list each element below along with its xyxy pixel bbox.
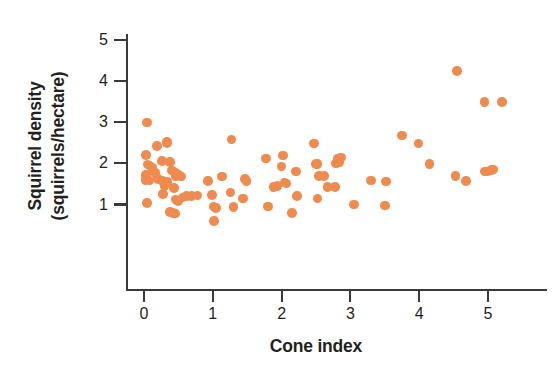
- data-point: [162, 137, 172, 147]
- x-tick-label: 1: [201, 306, 225, 322]
- x-tick-label: 2: [270, 306, 294, 322]
- data-point: [497, 97, 507, 107]
- y-tick-mark: [114, 39, 126, 41]
- y-axis-label: Squirrel density (squirrels/hectare): [24, 6, 80, 286]
- data-point: [226, 188, 236, 198]
- data-point: [397, 131, 407, 141]
- data-point: [277, 162, 287, 172]
- x-tick-label: 3: [338, 306, 362, 322]
- data-point: [414, 139, 424, 149]
- y-tick-label: 2: [88, 155, 108, 171]
- data-point: [227, 135, 237, 145]
- data-point: [336, 153, 346, 163]
- y-axis-label-line1: Squirrel density: [24, 6, 47, 286]
- y-axis-line: [126, 34, 128, 291]
- data-point: [209, 216, 219, 226]
- data-point: [203, 176, 213, 186]
- data-point: [380, 201, 390, 211]
- x-tick-label: 4: [407, 306, 431, 322]
- data-point: [263, 202, 273, 212]
- data-point: [242, 176, 252, 186]
- data-point: [229, 202, 239, 212]
- data-point: [461, 176, 471, 186]
- data-point: [261, 154, 271, 164]
- data-point: [452, 66, 462, 76]
- data-point: [291, 167, 301, 177]
- data-point: [211, 203, 221, 213]
- data-point: [158, 189, 168, 199]
- x-tick-label: 5: [476, 306, 500, 322]
- y-tick-label: 1: [88, 197, 108, 213]
- data-point: [163, 177, 173, 187]
- data-point: [142, 118, 152, 128]
- data-point: [330, 182, 340, 192]
- x-tick-mark: [281, 291, 283, 302]
- data-point: [292, 191, 302, 201]
- data-point: [207, 190, 217, 200]
- data-point: [171, 209, 181, 219]
- y-tick-mark: [114, 203, 126, 205]
- data-point: [217, 172, 227, 182]
- data-point: [141, 150, 151, 160]
- x-tick-mark: [143, 291, 145, 302]
- x-tick-mark: [349, 291, 351, 302]
- y-tick-label: 3: [88, 114, 108, 130]
- data-point: [193, 191, 203, 201]
- data-point: [313, 194, 323, 204]
- x-tick-mark: [487, 291, 489, 302]
- data-point: [152, 141, 162, 151]
- data-point: [319, 171, 329, 181]
- y-tick-label: 5: [88, 32, 108, 48]
- x-axis-label: Cone index: [144, 336, 488, 357]
- data-point: [278, 151, 288, 161]
- data-point: [282, 179, 292, 189]
- scatter-plot-figure: Squirrel density (squirrels/hectare) Con…: [0, 0, 559, 381]
- data-point: [451, 171, 461, 181]
- data-point: [366, 176, 376, 186]
- y-tick-label: 4: [88, 73, 108, 89]
- data-point: [176, 172, 186, 182]
- y-tick-mark: [114, 121, 126, 123]
- data-point: [309, 139, 319, 149]
- data-point: [381, 177, 391, 187]
- x-axis-line: [126, 289, 547, 291]
- data-point: [349, 200, 359, 210]
- y-axis-label-line2: (squirrels/hectare): [47, 6, 70, 286]
- x-tick-label: 0: [132, 306, 156, 322]
- data-point: [489, 165, 499, 175]
- data-point: [313, 159, 323, 169]
- data-point: [480, 97, 490, 107]
- x-tick-mark: [418, 291, 420, 302]
- y-tick-mark: [114, 162, 126, 164]
- data-point: [287, 208, 297, 218]
- x-tick-mark: [212, 291, 214, 302]
- data-point: [425, 159, 435, 169]
- data-point: [142, 198, 152, 208]
- data-point: [238, 194, 248, 204]
- y-tick-mark: [114, 80, 126, 82]
